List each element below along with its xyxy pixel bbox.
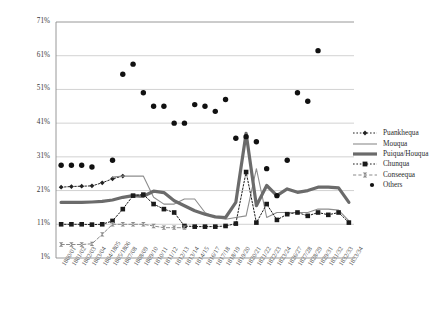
data-point-dot bbox=[223, 97, 228, 102]
data-point-square bbox=[59, 222, 64, 227]
data-point-dot bbox=[254, 139, 259, 144]
legend-label: Mouqua bbox=[383, 139, 407, 149]
legend-label: Chunqua bbox=[383, 159, 409, 169]
legend-item[interactable]: Others bbox=[352, 180, 428, 190]
data-point-square bbox=[90, 222, 95, 227]
series-line-Puiqua/Houqua bbox=[61, 133, 349, 217]
data-point-dot bbox=[295, 90, 300, 95]
data-point-dot bbox=[58, 163, 63, 168]
data-point-square bbox=[162, 207, 167, 212]
data-point-dot bbox=[192, 102, 197, 107]
data-point-square bbox=[234, 221, 239, 226]
data-point-dot bbox=[233, 136, 238, 141]
data-point-square bbox=[316, 210, 321, 215]
chart-container: 1%11%21%31%41%51%61%71% 1800/011801/0218… bbox=[0, 0, 436, 323]
data-point-dot bbox=[141, 90, 146, 95]
data-point-square bbox=[69, 222, 74, 227]
data-point-hourglass bbox=[100, 232, 104, 236]
data-point-square bbox=[192, 224, 197, 229]
data-point-dot bbox=[69, 163, 74, 168]
data-point-square bbox=[295, 210, 300, 215]
legend-label: Others bbox=[383, 180, 402, 190]
data-point-square bbox=[305, 214, 310, 219]
legend-marker-icon bbox=[352, 180, 378, 190]
data-point-square bbox=[172, 210, 177, 215]
legend-marker-icon bbox=[352, 128, 378, 138]
data-point-dot bbox=[243, 134, 248, 139]
data-point-square bbox=[213, 224, 218, 229]
legend-marker-icon bbox=[352, 139, 378, 149]
data-point-dot bbox=[315, 48, 320, 53]
series-line-Chunqua bbox=[61, 172, 349, 227]
data-point-square bbox=[141, 192, 146, 197]
data-point-square bbox=[131, 193, 136, 198]
data-point-square bbox=[223, 224, 228, 229]
legend-item[interactable]: Puankhequa bbox=[352, 128, 428, 138]
data-point-dot bbox=[264, 166, 269, 171]
data-point-dot bbox=[171, 120, 176, 125]
data-point-diamond bbox=[79, 184, 84, 189]
legend-item[interactable]: Chunqua bbox=[352, 159, 428, 169]
data-point-dot bbox=[79, 163, 84, 168]
data-point-square bbox=[336, 210, 341, 215]
data-point-square bbox=[326, 213, 331, 218]
series-line-Conseequa bbox=[61, 224, 184, 244]
data-point-dot bbox=[110, 158, 115, 163]
data-point-dot bbox=[130, 61, 135, 66]
data-point-dot bbox=[182, 120, 187, 125]
legend-marker-icon bbox=[352, 159, 378, 169]
data-point-square bbox=[79, 222, 84, 227]
data-point-square bbox=[120, 207, 125, 212]
data-point-dot bbox=[285, 158, 290, 163]
data-point-square bbox=[285, 212, 290, 217]
data-point-dot bbox=[161, 104, 166, 109]
data-point-square bbox=[203, 224, 208, 229]
legend-marker-icon bbox=[352, 149, 378, 159]
data-point-dot bbox=[120, 72, 125, 77]
data-point-diamond bbox=[69, 184, 74, 189]
legend-label: Conseequa bbox=[383, 170, 415, 180]
data-point-dot bbox=[202, 104, 207, 109]
legend-item[interactable]: Mouqua bbox=[352, 138, 428, 148]
data-point-diamond bbox=[90, 183, 95, 188]
chart-legend: PuankhequaMouquaPuiqua/HouquaChunquaCons… bbox=[352, 128, 428, 190]
data-point-square bbox=[151, 202, 156, 207]
legend-marker-icon bbox=[352, 170, 378, 180]
data-point-square bbox=[275, 218, 280, 223]
data-point-diamond bbox=[59, 185, 64, 190]
data-point-dot bbox=[305, 99, 310, 104]
data-point-dot bbox=[213, 109, 218, 114]
data-point-dot bbox=[89, 164, 94, 169]
data-point-square bbox=[347, 220, 352, 225]
legend-item[interactable]: Puiqua/Houqua bbox=[352, 149, 428, 159]
legend-label: Puankhequa bbox=[383, 128, 419, 138]
data-point-diamond bbox=[100, 180, 105, 185]
data-point-dot bbox=[151, 104, 156, 109]
data-point-square bbox=[100, 222, 105, 227]
data-point-dot bbox=[274, 193, 279, 198]
data-point-square bbox=[244, 170, 249, 175]
data-point-square bbox=[264, 202, 269, 207]
data-point-square bbox=[254, 220, 259, 225]
legend-label: Puiqua/Houqua bbox=[383, 149, 428, 159]
legend-item[interactable]: Conseequa bbox=[352, 170, 428, 180]
